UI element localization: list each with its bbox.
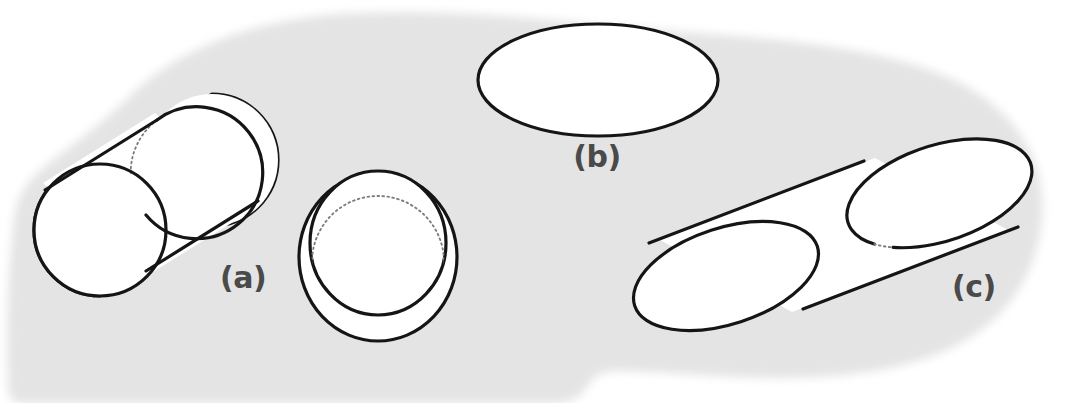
figure-svg: (a) (b) [0, 0, 1080, 403]
oblique-cylinder-a: (a) [34, 94, 278, 296]
figure-label-a: (a) [220, 260, 266, 295]
figure-label-b: (b) [573, 139, 620, 174]
figure-canvas: (a) (b) [0, 0, 1080, 403]
figure-label-c: (c) [952, 269, 996, 304]
foreshortened-cylinder [299, 171, 457, 341]
cylinder-b-face [478, 24, 718, 136]
mid-cylinder-front-face [310, 171, 446, 315]
